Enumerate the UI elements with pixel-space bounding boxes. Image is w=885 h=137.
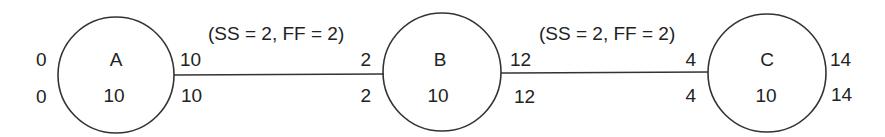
node-c-duration: 10 — [755, 86, 776, 105]
node-a-circle — [58, 17, 174, 133]
node-a-label: A — [110, 50, 123, 69]
node-b-early-finish: 12 — [510, 50, 531, 69]
node-c-early-start: 4 — [685, 50, 696, 69]
node-b-early-start: 2 — [360, 50, 371, 69]
node-b-label: B — [434, 50, 447, 69]
edge-a-to-b — [174, 74, 384, 75]
node-c-circle — [708, 14, 826, 132]
node-b-duration: 10 — [427, 86, 448, 105]
node-b-circle — [383, 13, 501, 131]
node-c-late-finish: 14 — [831, 85, 852, 104]
node-c-label: C — [760, 50, 774, 69]
precedence-network-diagram: (SS = 2, FF = 2) (SS = 2, FF = 2) A 10 0… — [0, 0, 885, 137]
node-b-late-start: 2 — [360, 86, 371, 105]
edge-b-to-c — [501, 72, 708, 73]
node-b-late-finish: 12 — [514, 87, 535, 106]
node-c-early-finish: 14 — [830, 50, 851, 69]
node-a-late-start: 0 — [36, 87, 47, 106]
edge-a-b-label: (SS = 2, FF = 2) — [208, 24, 344, 43]
node-a-duration: 10 — [103, 86, 124, 105]
node-a-early-start: 0 — [36, 50, 47, 69]
node-a-early-finish: 10 — [180, 50, 201, 69]
node-a-late-finish: 10 — [181, 86, 202, 105]
node-c-late-start: 4 — [685, 86, 696, 105]
edge-b-c-label: (SS = 2, FF = 2) — [539, 24, 675, 43]
